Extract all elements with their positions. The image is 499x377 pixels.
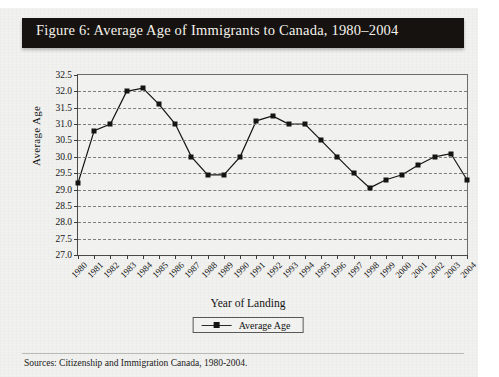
x-axis-tick-label: 2001 bbox=[410, 260, 430, 280]
x-axis-tick-label: 2003 bbox=[442, 260, 462, 280]
x-axis-tick bbox=[127, 255, 128, 259]
y-axis-tick-label: 27.0 bbox=[55, 250, 72, 260]
x-axis-tick bbox=[354, 255, 355, 259]
x-axis-tick-label: 1999 bbox=[377, 260, 397, 280]
data-point-marker bbox=[189, 154, 194, 159]
gridline bbox=[78, 124, 467, 125]
gridline bbox=[78, 206, 467, 207]
x-axis-tick bbox=[208, 255, 209, 259]
legend-label-average-age: Average Age bbox=[239, 320, 291, 331]
x-axis-tick-label: 1982 bbox=[102, 260, 122, 280]
y-axis-tick bbox=[74, 140, 78, 141]
x-axis-tick bbox=[159, 255, 160, 259]
x-axis-tick bbox=[175, 255, 176, 259]
x-axis-tick bbox=[418, 255, 419, 259]
x-axis-tick-label: 2002 bbox=[426, 260, 446, 280]
data-point-marker bbox=[270, 113, 275, 118]
x-axis-tick bbox=[256, 255, 257, 259]
x-axis-tick-label: 1988 bbox=[199, 260, 219, 280]
data-point-marker bbox=[205, 172, 210, 177]
data-point-marker bbox=[124, 89, 129, 94]
x-axis-tick-label: 1992 bbox=[264, 260, 284, 280]
x-axis-tick-label: 1987 bbox=[183, 260, 203, 280]
x-axis-tick bbox=[386, 255, 387, 259]
y-axis-tick-label: 32.5 bbox=[55, 70, 72, 80]
series-line-average-age bbox=[78, 75, 467, 255]
x-axis-tick bbox=[94, 255, 95, 259]
data-point-marker bbox=[383, 177, 388, 182]
y-axis-tick bbox=[74, 222, 78, 223]
x-axis-title: Year of Landing bbox=[22, 297, 474, 309]
data-point-marker bbox=[335, 154, 340, 159]
x-axis-tick bbox=[435, 255, 436, 259]
data-point-marker bbox=[140, 86, 145, 91]
gridline bbox=[78, 157, 467, 158]
data-point-marker bbox=[351, 171, 356, 176]
x-axis-tick-label: 1993 bbox=[280, 260, 300, 280]
y-axis-tick bbox=[74, 75, 78, 76]
data-point-marker bbox=[416, 163, 421, 168]
data-point-marker bbox=[92, 128, 97, 133]
x-axis-tick bbox=[110, 255, 111, 259]
data-point-marker bbox=[448, 151, 453, 156]
x-axis-tick-label: 1980 bbox=[69, 260, 89, 280]
y-axis-tick bbox=[74, 239, 78, 240]
y-axis-title: Average Age bbox=[30, 106, 42, 166]
y-axis-tick bbox=[74, 91, 78, 92]
source-note: Sources: Citizenship and Immigration Can… bbox=[24, 358, 247, 368]
figure-title-banner: Figure 6: Average Age of Immigrants to C… bbox=[22, 18, 464, 48]
y-axis-tick-label: 29.0 bbox=[55, 185, 72, 195]
data-point-marker bbox=[432, 154, 437, 159]
y-axis-tick-label: 32.0 bbox=[55, 86, 72, 96]
data-point-marker bbox=[76, 181, 81, 186]
x-axis-tick-label: 1996 bbox=[329, 260, 349, 280]
footer-divider bbox=[22, 353, 464, 354]
y-axis-tick-label: 30.0 bbox=[55, 152, 72, 162]
data-point-marker bbox=[302, 122, 307, 127]
y-axis-tick-label: 31.5 bbox=[55, 103, 72, 113]
x-axis-tick bbox=[451, 255, 452, 259]
data-point-marker bbox=[221, 172, 226, 177]
y-axis-tick-label: 28.0 bbox=[55, 217, 72, 227]
x-axis-tick-label: 1997 bbox=[345, 260, 365, 280]
gridline bbox=[78, 140, 467, 141]
x-axis-tick bbox=[305, 255, 306, 259]
x-axis-tick bbox=[224, 255, 225, 259]
y-axis-tick bbox=[74, 157, 78, 158]
x-axis-tick bbox=[273, 255, 274, 259]
x-axis-tick bbox=[191, 255, 192, 259]
x-axis-tick bbox=[337, 255, 338, 259]
gridline bbox=[78, 239, 467, 240]
x-axis-tick-label: 1984 bbox=[134, 260, 154, 280]
page-edge bbox=[478, 8, 499, 377]
gridline bbox=[78, 108, 467, 109]
y-axis-tick-label: 29.5 bbox=[55, 168, 72, 178]
data-point-marker bbox=[157, 102, 162, 107]
chart-legend: Average Age bbox=[193, 317, 304, 333]
data-point-marker bbox=[173, 122, 178, 127]
gridline bbox=[78, 190, 467, 191]
x-axis-tick bbox=[402, 255, 403, 259]
data-point-marker bbox=[400, 172, 405, 177]
legend-marker-icon bbox=[202, 321, 232, 330]
gridline bbox=[78, 222, 467, 223]
gridline bbox=[78, 91, 467, 92]
data-point-marker bbox=[286, 122, 291, 127]
x-axis-tick bbox=[321, 255, 322, 259]
data-point-marker bbox=[238, 154, 243, 159]
y-axis-tick-label: 31.0 bbox=[55, 119, 72, 129]
x-axis-tick-label: 1983 bbox=[118, 260, 138, 280]
data-point-marker bbox=[108, 122, 113, 127]
gridline bbox=[78, 173, 467, 174]
y-axis-tick bbox=[74, 124, 78, 125]
x-axis-tick-label: 1989 bbox=[215, 260, 235, 280]
data-point-marker bbox=[465, 177, 470, 182]
x-axis-tick-label: 1998 bbox=[361, 260, 381, 280]
page-title: Figure 6: Average Age of Immigrants to C… bbox=[36, 22, 399, 39]
chart-container: Average Age 32.532.031.531.030.530.029.5… bbox=[22, 54, 474, 346]
x-axis-tick-label: 1991 bbox=[248, 260, 268, 280]
x-axis-tick bbox=[143, 255, 144, 259]
x-axis-tick bbox=[370, 255, 371, 259]
x-axis-tick bbox=[78, 255, 79, 259]
data-point-marker bbox=[319, 138, 324, 143]
